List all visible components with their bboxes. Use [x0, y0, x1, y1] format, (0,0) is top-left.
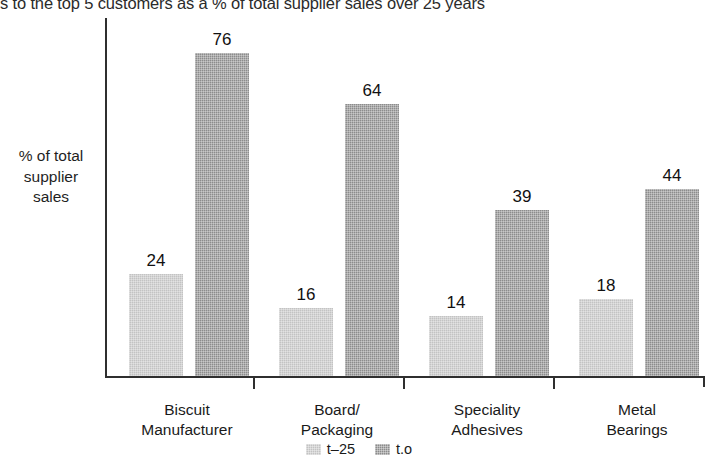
y-axis-label-line-1: % of total: [2, 146, 100, 167]
bar-biscuit-manufacturer-t-25[interactable]: [129, 274, 183, 376]
legend-label-t-25: t–25: [327, 441, 355, 457]
plot-area: 24 76 16 64 14 39 18 44 Biscuit Manufact…: [105, 18, 705, 378]
y-axis-line: [105, 18, 107, 378]
bar-board-packaging-t-25[interactable]: [279, 308, 333, 376]
category-tick-3: [553, 378, 555, 389]
legend-swatch-icon-t-25: [306, 444, 321, 455]
category-label-biscuit-manufacturer: Biscuit Manufacturer: [117, 400, 257, 440]
category-label-line-1: Biscuit: [117, 400, 257, 420]
category-label-line-1: Metal: [567, 400, 707, 420]
category-tick-1: [253, 378, 255, 389]
category-label-board-packaging: Board/ Packaging: [267, 400, 407, 440]
bar-value-biscuit-manufacturer-t-25: 24: [129, 252, 183, 270]
category-label-line-2: Adhesives: [417, 420, 557, 440]
bar-group-biscuit-manufacturer: 24 76: [129, 18, 249, 376]
y-axis-label-line-2: supplier: [2, 167, 100, 188]
bar-value-metal-bearings-t-o: 44: [645, 167, 699, 185]
bar-value-speciality-adhesives-t-o: 39: [495, 188, 549, 206]
bar-speciality-adhesives-t-25[interactable]: [429, 316, 483, 376]
x-axis-end-tick: [703, 376, 705, 387]
bar-value-board-packaging-t-25: 16: [279, 286, 333, 304]
x-axis-line: [105, 376, 705, 378]
legend-label-t-o: t.o: [396, 441, 412, 457]
category-label-line-2: Manufacturer: [117, 420, 257, 440]
bar-value-biscuit-manufacturer-t-o: 76: [195, 31, 249, 49]
bar-board-packaging-t-o[interactable]: [345, 104, 399, 376]
chart-title: s to the top 5 customers as a % of total…: [0, 0, 718, 13]
category-label-line-1: Speciality: [417, 400, 557, 420]
bar-group-speciality-adhesives: 14 39: [429, 18, 549, 376]
category-label-speciality-adhesives: Speciality Adhesives: [417, 400, 557, 440]
legend-item-t-o[interactable]: t.o: [375, 441, 412, 457]
bar-speciality-adhesives-t-o[interactable]: [495, 210, 549, 376]
category-label-line-2: Bearings: [567, 420, 707, 440]
category-label-line-2: Packaging: [267, 420, 407, 440]
bar-metal-bearings-t-25[interactable]: [579, 299, 633, 376]
bar-value-metal-bearings-t-25: 18: [579, 277, 633, 295]
bar-biscuit-manufacturer-t-o[interactable]: [195, 53, 249, 376]
category-tick-2: [403, 378, 405, 389]
chart-legend: t–25 t.o: [0, 441, 718, 457]
legend-swatch-icon-t-o: [375, 444, 390, 455]
y-axis-label: % of total supplier sales: [2, 146, 100, 208]
bar-metal-bearings-t-o[interactable]: [645, 189, 699, 376]
bar-value-board-packaging-t-o: 64: [345, 82, 399, 100]
category-label-line-1: Board/: [267, 400, 407, 420]
bar-group-board-packaging: 16 64: [279, 18, 399, 376]
bar-value-speciality-adhesives-t-25: 14: [429, 294, 483, 312]
bar-group-metal-bearings: 18 44: [579, 18, 699, 376]
y-axis-label-line-3: sales: [2, 187, 100, 208]
category-label-metal-bearings: Metal Bearings: [567, 400, 707, 440]
legend-item-t-25[interactable]: t–25: [306, 441, 355, 457]
